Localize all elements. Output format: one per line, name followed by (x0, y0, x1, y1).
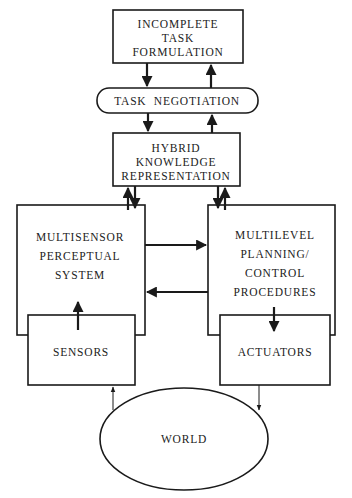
node-label: SYSTEM (55, 269, 105, 281)
sensors-node: SENSORS (28, 315, 135, 385)
task-negotiation-node: TASK NEGOTIATION (97, 88, 258, 113)
node-label: HYBRID (152, 142, 201, 154)
node-label: FORMULATION (132, 46, 223, 58)
incomplete-task-formulation-node: INCOMPLETE TASK FORMULATION (113, 10, 243, 63)
world-node: WORLD (100, 388, 268, 490)
node-label: REPRESENTATION (121, 170, 230, 182)
hybrid-knowledge-representation-node: HYBRID KNOWLEDGE REPRESENTATION (113, 133, 240, 186)
node-label: TASK NEGOTIATION (114, 95, 240, 107)
node-label: PLANNING/ (240, 248, 309, 260)
node-label: MULTILEVEL (235, 229, 315, 241)
node-label: MULTISENSOR (36, 231, 124, 243)
node-label: CONTROL (245, 267, 305, 279)
system-architecture-diagram: INCOMPLETE TASK FORMULATION TASK NEGOTIA… (0, 0, 352, 498)
node-label: WORLD (161, 433, 207, 445)
node-label: SENSORS (53, 346, 109, 358)
node-label: PERCEPTUAL (40, 250, 121, 262)
node-label: INCOMPLETE (138, 18, 219, 30)
node-label: TASK (162, 32, 194, 44)
node-label: KNOWLEDGE (136, 156, 217, 168)
node-label: PROCEDURES (234, 286, 317, 298)
node-label: ACTUATORS (238, 346, 313, 358)
